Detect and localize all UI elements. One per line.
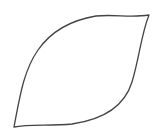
leaf-outline-shape: [14, 15, 149, 127]
leaf-shape-canvas: [0, 0, 158, 140]
